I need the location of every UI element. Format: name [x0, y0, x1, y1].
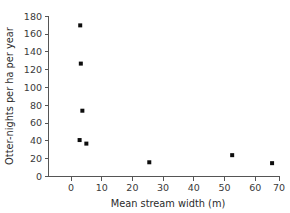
y-tick-label: 40: [30, 135, 42, 146]
data-points-group: [78, 23, 274, 165]
data-point: [230, 153, 234, 157]
y-tick-label: 20: [30, 153, 42, 164]
y-tick-label: 80: [30, 100, 42, 111]
x-tick-label: 20: [126, 182, 138, 193]
x-tick-label: 50: [218, 182, 230, 193]
axes-group: [48, 16, 280, 177]
plot-canvas: 0 20 40 60 80 100 120 140 160 180 0 10 2…: [0, 0, 290, 213]
y-tick-label: 160: [24, 28, 42, 39]
y-tick-label: 120: [24, 64, 42, 75]
data-point: [78, 23, 82, 27]
x-tick-label: 30: [157, 182, 169, 193]
y-tick-label: 0: [36, 171, 42, 182]
y-axis-ticks: [45, 16, 49, 176]
data-point: [78, 138, 82, 142]
x-tick-label: 70: [273, 182, 285, 193]
x-tick-label: 0: [68, 182, 74, 193]
data-point: [84, 142, 88, 146]
x-axis-title: Mean stream width (m): [111, 198, 226, 209]
x-axis-tick-labels: 0 10 20 30 40 50 60 70: [68, 182, 285, 193]
data-point: [80, 109, 84, 113]
x-axis-ticks: [71, 177, 279, 181]
y-tick-label: 140: [24, 46, 42, 57]
y-tick-label: 180: [24, 11, 42, 22]
data-point: [270, 161, 274, 165]
data-point: [79, 62, 83, 66]
x-tick-label: 40: [188, 182, 200, 193]
data-point: [147, 160, 151, 164]
y-axis-title: Otter-nights per ha per year: [4, 26, 15, 165]
x-tick-label: 10: [96, 182, 108, 193]
y-axis-tick-labels: 0 20 40 60 80 100 120 140 160 180: [24, 11, 42, 182]
y-tick-label: 100: [24, 82, 42, 93]
x-tick-label: 60: [249, 182, 261, 193]
scatter-plot-figure: 0 20 40 60 80 100 120 140 160 180 0 10 2…: [0, 0, 290, 213]
y-tick-label: 60: [30, 117, 42, 128]
